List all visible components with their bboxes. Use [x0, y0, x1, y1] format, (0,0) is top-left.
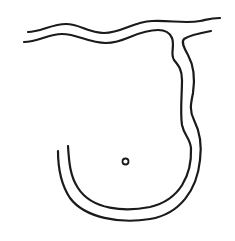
center-circle: [123, 159, 129, 165]
top-channel-lower-wall: [24, 30, 191, 209]
channel-diagram: [0, 0, 235, 241]
top-channel-upper-wall: [28, 18, 220, 33]
